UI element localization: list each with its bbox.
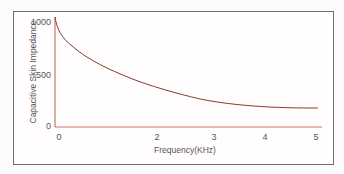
chart-canvas: 1000 500 0 0 2 3 4 5 Frequency(KHz) Capa…	[0, 0, 344, 174]
x-axis-label: Frequency(KHz)	[154, 145, 216, 155]
x-tick-4: 4	[262, 132, 267, 142]
impedance-curve	[55, 17, 318, 108]
x-tick-5: 5	[313, 132, 318, 142]
y-tick-500: 500	[36, 70, 51, 80]
y-tick-0: 0	[46, 121, 51, 131]
x-tick-2: 2	[154, 132, 159, 142]
x-tick-0: 0	[56, 132, 61, 142]
x-tick-3: 3	[211, 132, 216, 142]
y-axis-label: Capacitive Skin Impedance	[28, 20, 38, 123]
